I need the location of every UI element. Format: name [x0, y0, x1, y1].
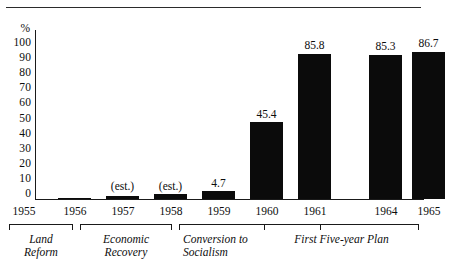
- y-tick-60: 60: [1, 97, 31, 109]
- y-tick-10: 10: [1, 173, 31, 185]
- bar-1956: [58, 198, 91, 199]
- year-label-1957: 1957: [99, 205, 147, 218]
- bracket-first-five-year-plan: [264, 224, 419, 230]
- period-conversion-line1: Conversion to: [183, 233, 248, 245]
- bar-label-1964: 85.3: [362, 41, 409, 53]
- period-brackets: LandReform EconomicRecovery Conversion t…: [0, 224, 427, 261]
- y-tick-90: 90: [1, 52, 31, 64]
- y-tick-50: 50: [1, 113, 31, 125]
- bar-label-1959: 4.7: [195, 178, 242, 190]
- y-tick-30: 30: [1, 143, 31, 155]
- period-label-land-reform: LandReform: [3, 233, 79, 258]
- year-label-1958: 1958: [147, 205, 195, 218]
- year-label-1961: 1961: [291, 205, 339, 218]
- bar-1959: [202, 191, 235, 199]
- bars-container: (est.) (est.) 4.7 45.4 85.8 85.3 86.7: [35, 30, 424, 199]
- period-land-reform-line2: Reform: [24, 246, 58, 258]
- bar-label-1957: (est.): [97, 181, 148, 193]
- top-divider-rule: [6, 7, 421, 8]
- year-label-1965: 1965: [405, 205, 449, 218]
- period-economic-recovery-line1: Economic: [103, 233, 149, 245]
- year-label-1960: 1960: [243, 205, 291, 218]
- year-label-1956: 1956: [51, 205, 99, 218]
- bar-label-1961: 85.8: [291, 40, 338, 52]
- bar-1965: [412, 52, 445, 199]
- y-tick-70: 70: [1, 82, 31, 94]
- bracket-land-reform: [9, 224, 73, 230]
- y-tick-40: 40: [1, 128, 31, 140]
- y-tick-100: 100: [1, 37, 31, 49]
- period-five-year-plan-line1: First Five-year Plan: [294, 233, 389, 245]
- period-economic-recovery-line2: Recovery: [105, 246, 148, 258]
- bar-1964: [369, 55, 402, 199]
- y-tick-80: 80: [1, 67, 31, 79]
- bar-1958: [154, 194, 187, 199]
- bar-1960: [250, 122, 283, 199]
- year-label-1959: 1959: [195, 205, 243, 218]
- period-conversion-line2: Socialism: [183, 246, 228, 258]
- y-tick-0: 0: [1, 188, 31, 200]
- period-land-reform-line1: Land: [29, 233, 53, 245]
- bar-label-1958: (est.): [145, 181, 196, 193]
- year-label-1964: 1964: [362, 205, 410, 218]
- bar-label-1960: 45.4: [243, 109, 290, 121]
- y-tick-20: 20: [1, 158, 31, 170]
- bar-label-1965: 86.7: [405, 38, 449, 50]
- year-label-1955: 1955: [0, 205, 48, 218]
- bracket-economic-recovery: [80, 224, 172, 230]
- x-axis-year-labels: 1955 1956 1957 1958 1959 1960 1961 1964 …: [0, 205, 427, 220]
- bar-1961: [298, 54, 331, 199]
- period-label-first-five-year-plan: First Five-year Plan: [264, 233, 419, 246]
- y-axis-unit-label: %: [0, 23, 30, 35]
- bar-1957: [106, 196, 139, 199]
- y-axis-labels: % 100 90 80 70 60 50 40 30 20 10 0: [0, 0, 31, 261]
